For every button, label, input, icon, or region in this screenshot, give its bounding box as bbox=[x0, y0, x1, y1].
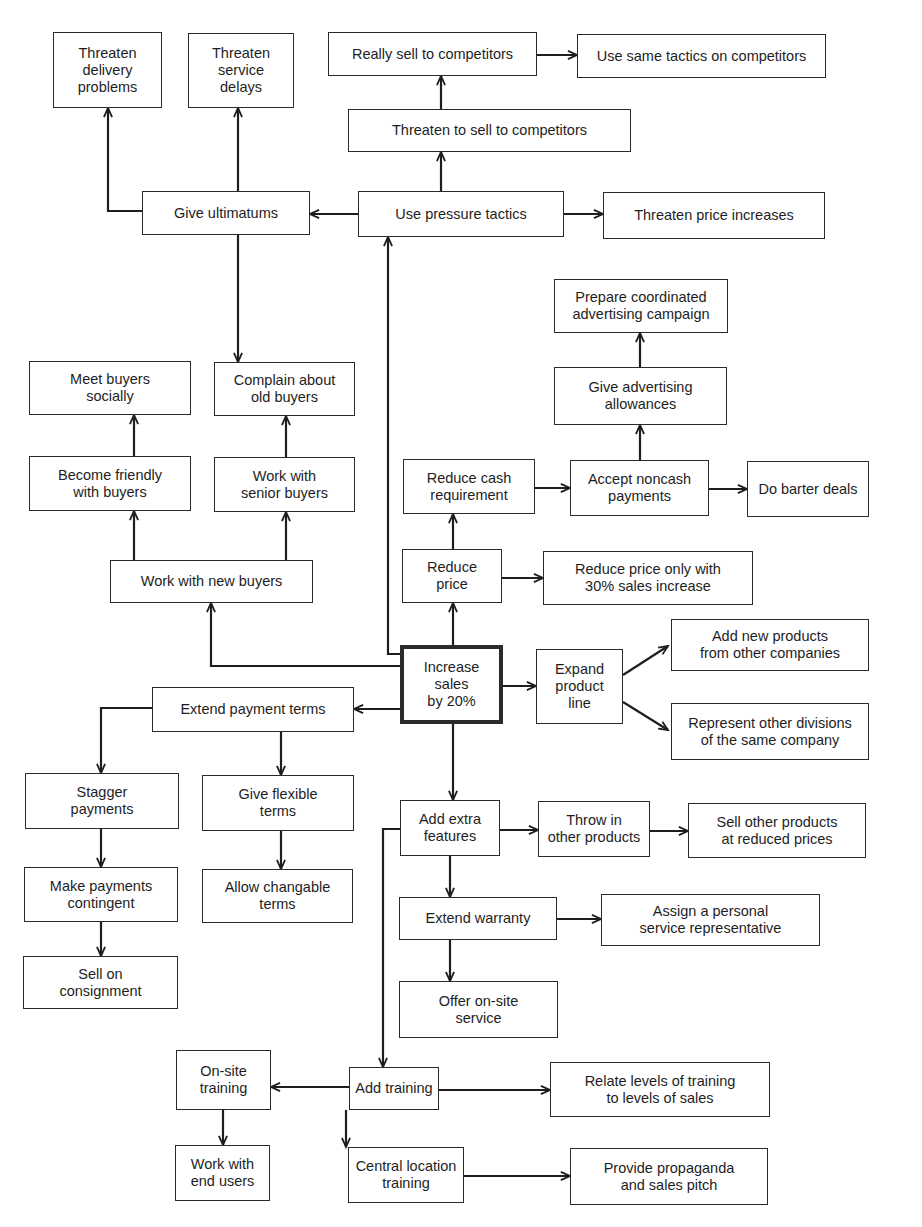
connector-increase-sales-to-extend-payment bbox=[354, 705, 400, 713]
node-relate-levels: Relate levels of training to levels of s… bbox=[550, 1062, 770, 1117]
connector-reduce-cash-to-noncash bbox=[535, 484, 570, 492]
node-label: Add training bbox=[355, 1080, 432, 1097]
node-sell-other-reduced: Sell other products at reduced prices bbox=[688, 803, 866, 858]
connector-increase-sales-to-new-buyers bbox=[207, 603, 400, 666]
node-label: Throw in other products bbox=[548, 812, 641, 846]
node-reduce-price-30: Reduce price only with 30% sales increas… bbox=[543, 551, 753, 605]
node-represent-divisions: Represent other divisions of the same co… bbox=[671, 703, 869, 760]
node-label: Make payments contingent bbox=[50, 878, 152, 912]
connector-noncash-to-barter bbox=[709, 485, 747, 493]
connector-stagger-to-contingent bbox=[97, 829, 105, 867]
node-label: Give flexible terms bbox=[239, 786, 318, 820]
connector-expand-line-to-add-new-products bbox=[623, 646, 668, 675]
connector-throw-in-to-sell-other-reduced bbox=[650, 827, 688, 835]
node-complain-old: Complain about old buyers bbox=[214, 362, 355, 416]
node-extend-warranty: Extend warranty bbox=[399, 897, 557, 940]
node-reduce-price: Reduce price bbox=[402, 549, 502, 603]
node-label: Become friendly with buyers bbox=[58, 467, 162, 501]
node-label: Threaten to sell to competitors bbox=[392, 122, 587, 139]
node-label: On-site training bbox=[200, 1063, 248, 1097]
node-give-ultimatums: Give ultimatums bbox=[142, 191, 310, 235]
connector-reduce-price-to-reduce-price-30 bbox=[502, 574, 543, 582]
connector-pressure-tactics-to-threaten-price bbox=[564, 210, 603, 218]
node-prepare-campaign: Prepare coordinated advertising campaign bbox=[554, 279, 728, 333]
node-add-new-products: Add new products from other companies bbox=[671, 619, 869, 671]
node-reduce-cash: Reduce cash requirement bbox=[403, 459, 535, 514]
node-extra-features: Add extra features bbox=[400, 800, 500, 856]
node-label: Give ultimatums bbox=[174, 205, 278, 222]
connector-flexible-terms-to-changable-terms bbox=[277, 831, 285, 869]
connector-add-training-to-relate-levels bbox=[439, 1086, 550, 1094]
node-really-sell: Really sell to competitors bbox=[328, 32, 537, 76]
node-label: Use same tactics on competitors bbox=[597, 48, 807, 65]
node-label: Expand product line bbox=[555, 661, 604, 712]
node-label: Add new products from other companies bbox=[700, 628, 840, 662]
node-label: Threaten price increases bbox=[634, 207, 794, 224]
node-central-training: Central location training bbox=[348, 1147, 464, 1203]
node-label: Add extra features bbox=[419, 811, 481, 845]
node-label: Extend payment terms bbox=[180, 701, 325, 718]
node-label: Use pressure tactics bbox=[395, 206, 526, 223]
node-label: Really sell to competitors bbox=[352, 46, 513, 63]
connector-noncash-to-ad-allowances bbox=[636, 425, 644, 460]
node-personal-rep: Assign a personal service representative bbox=[601, 894, 820, 946]
node-label: Complain about old buyers bbox=[234, 372, 336, 406]
node-extend-payment: Extend payment terms bbox=[152, 687, 354, 732]
connector-increase-sales-to-pressure-tactics bbox=[384, 237, 400, 654]
node-increase-sales: Increase sales by 20% bbox=[400, 645, 503, 724]
node-label: Stagger payments bbox=[71, 784, 134, 818]
node-noncash: Accept noncash payments bbox=[570, 460, 709, 516]
connector-extra-features-to-extend-warranty bbox=[446, 856, 454, 897]
node-label: Provide propaganda and sales pitch bbox=[604, 1160, 735, 1194]
node-add-training: Add training bbox=[349, 1067, 439, 1110]
node-onsite-training: On-site training bbox=[176, 1050, 271, 1110]
node-onsite-service: Offer on-site service bbox=[399, 981, 558, 1038]
connector-reduce-price-to-reduce-cash bbox=[449, 514, 457, 549]
node-label: Sell other products at reduced prices bbox=[717, 814, 838, 848]
connector-new-buyers-to-senior-buyers bbox=[282, 512, 290, 560]
node-label: Extend warranty bbox=[426, 910, 531, 927]
connector-extend-warranty-to-onsite-service bbox=[446, 940, 454, 981]
node-label: Increase sales by 20% bbox=[424, 659, 480, 710]
node-barter: Do barter deals bbox=[747, 461, 869, 517]
node-label: Allow changable terms bbox=[225, 879, 331, 913]
node-label: Assign a personal service representative bbox=[640, 903, 782, 937]
connector-central-training-to-propaganda bbox=[464, 1172, 570, 1180]
node-label: Represent other divisions of the same co… bbox=[688, 715, 852, 749]
flowchart-canvas: Threaten delivery problemsThreaten servi… bbox=[0, 0, 922, 1227]
node-label: Prepare coordinated advertising campaign bbox=[572, 289, 709, 323]
connector-add-training-to-central-training bbox=[342, 1110, 350, 1147]
node-throw-in: Throw in other products bbox=[538, 801, 650, 857]
node-pressure-tactics: Use pressure tactics bbox=[358, 191, 564, 237]
node-label: Meet buyers socially bbox=[70, 371, 150, 405]
node-label: Do barter deals bbox=[758, 481, 857, 498]
node-new-buyers: Work with new buyers bbox=[110, 560, 313, 603]
node-label: Work with end users bbox=[191, 1156, 255, 1190]
node-end-users: Work with end users bbox=[175, 1145, 270, 1201]
node-label: Relate levels of training to levels of s… bbox=[585, 1073, 736, 1107]
node-threaten-sell: Threaten to sell to competitors bbox=[348, 109, 631, 152]
node-changable-terms: Allow changable terms bbox=[202, 869, 353, 923]
connector-senior-buyers-to-complain-old bbox=[282, 416, 290, 457]
node-same-tactics: Use same tactics on competitors bbox=[577, 34, 826, 78]
node-expand-line: Expand product line bbox=[536, 649, 623, 724]
node-threaten-service: Threaten service delays bbox=[188, 33, 294, 108]
connector-extend-payment-to-stagger bbox=[97, 708, 152, 773]
connector-ad-allowances-to-prepare-campaign bbox=[636, 333, 644, 367]
node-label: Reduce price bbox=[427, 559, 477, 593]
connector-increase-sales-to-extra-features bbox=[449, 724, 457, 800]
connector-extra-features-to-add-training bbox=[379, 829, 400, 1067]
node-label: Accept noncash payments bbox=[588, 471, 691, 505]
connector-contingent-to-consignment bbox=[97, 922, 105, 956]
node-label: Central location training bbox=[356, 1158, 457, 1192]
connector-give-ultimatums-to-complain-old bbox=[234, 235, 242, 362]
node-flexible-terms: Give flexible terms bbox=[202, 775, 354, 831]
node-meet-socially: Meet buyers socially bbox=[29, 361, 191, 415]
node-ad-allowances: Give advertising allowances bbox=[554, 367, 727, 425]
connector-really-sell-to-same-tactics bbox=[537, 51, 577, 59]
connector-give-ultimatums-to-threaten-delivery bbox=[104, 108, 142, 211]
node-label: Threaten service delays bbox=[212, 45, 270, 96]
connector-layer bbox=[0, 0, 922, 1227]
connector-extra-features-to-throw-in bbox=[500, 826, 538, 834]
node-label: Work with new buyers bbox=[141, 573, 283, 590]
